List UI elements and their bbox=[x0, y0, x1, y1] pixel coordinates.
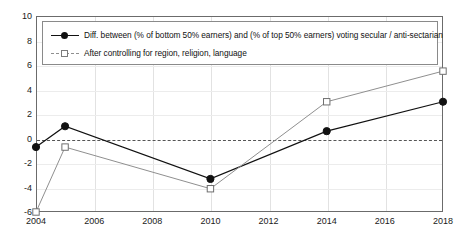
y-tick-label: 0 bbox=[4, 135, 32, 144]
x-tick-label: 2012 bbox=[249, 216, 289, 226]
legend-label-secondary: After controlling for region, religion, … bbox=[84, 48, 247, 58]
y-tick-label: 4 bbox=[4, 86, 32, 95]
x-tick-label: 2010 bbox=[190, 216, 230, 226]
legend-label-primary: Diff. between (% of bottom 50% earners) … bbox=[84, 30, 443, 40]
zero-reference-line bbox=[37, 140, 442, 141]
legend-item-secondary: After controlling for region, religion, … bbox=[51, 47, 247, 59]
legend-marker-hollow-square-icon bbox=[51, 48, 79, 59]
legend: Diff. between (% of bottom 50% earners) … bbox=[42, 21, 438, 65]
gridline-horizontal bbox=[37, 115, 442, 116]
legend-marker-filled-circle-icon bbox=[51, 30, 79, 41]
legend-item-primary: Diff. between (% of bottom 50% earners) … bbox=[51, 29, 443, 41]
y-tick-label: -4 bbox=[4, 184, 32, 193]
x-tick-label: 2018 bbox=[423, 216, 463, 226]
gridline-horizontal bbox=[37, 91, 442, 92]
x-tick-label: 2016 bbox=[365, 216, 405, 226]
x-tick-label: 2014 bbox=[307, 216, 347, 226]
chart-container: 1086420-2-4-6 20042006200820102012201420… bbox=[0, 0, 476, 244]
gridline-horizontal bbox=[37, 164, 442, 165]
y-tick-label: -2 bbox=[4, 159, 32, 168]
y-tick-label: 10 bbox=[4, 12, 32, 21]
x-tick-label: 2008 bbox=[132, 216, 172, 226]
x-tick-label: 2004 bbox=[16, 216, 56, 226]
y-tick-label: 8 bbox=[4, 37, 32, 46]
y-tick-label: 2 bbox=[4, 110, 32, 119]
gridline-horizontal bbox=[37, 189, 442, 190]
x-tick-label: 2006 bbox=[74, 216, 114, 226]
gridline-horizontal bbox=[37, 66, 442, 67]
y-tick-label: 6 bbox=[4, 61, 32, 70]
